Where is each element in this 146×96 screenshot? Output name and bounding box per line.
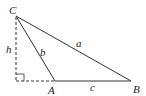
vertex-label-c: C: [9, 4, 17, 16]
vertex-label-a: A: [47, 84, 55, 96]
triangle-diagram: C h b a A c B: [0, 0, 146, 96]
side-label-a: a: [76, 37, 82, 49]
vertex-label-b: B: [133, 83, 140, 95]
altitude-label-h: h: [6, 43, 12, 55]
side-a: [16, 16, 131, 81]
side-label-b: b: [40, 46, 46, 58]
right-angle-marker: [16, 74, 24, 81]
side-label-c: c: [90, 81, 95, 93]
side-b: [16, 16, 55, 81]
